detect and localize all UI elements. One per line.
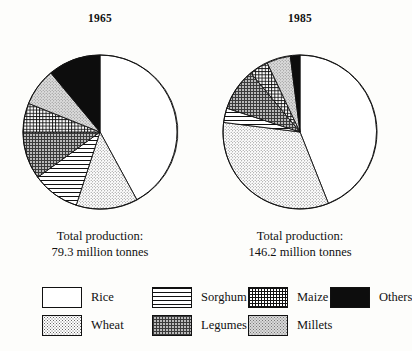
pie-chart-1985 xyxy=(220,52,380,212)
legend-item-others: Others xyxy=(330,285,412,309)
legend-swatch-wheat xyxy=(42,315,82,336)
legend-label-maize: Maize xyxy=(297,290,328,305)
total-production-label-1985: Total production: xyxy=(200,228,400,244)
pie-title-1965: 1965 xyxy=(0,12,200,24)
pie-chart-1965 xyxy=(20,52,180,212)
legend-label-sorghum: Sorghum xyxy=(201,290,247,305)
legend-label-rice: Rice xyxy=(91,290,114,305)
pie-panel-1965: 1965 xyxy=(0,0,200,281)
legend-item-rice: Rice xyxy=(42,285,114,309)
chart-legend: Rice Sorghum Maize Others Wheat Legumes … xyxy=(0,283,400,351)
legend-swatch-maize xyxy=(248,287,288,308)
legend-item-wheat: Wheat xyxy=(42,313,124,337)
total-production-label-1965: Total production: xyxy=(0,228,200,244)
charts-container: 1965 xyxy=(0,0,400,281)
total-production-value-1965: 79.3 million tonnes xyxy=(0,244,200,260)
legend-item-sorghum: Sorghum xyxy=(152,285,247,309)
pie-svg-1965 xyxy=(20,52,180,212)
total-production-value-1985: 146.2 million tonnes xyxy=(200,244,400,260)
legend-label-legumes: Legumes xyxy=(201,318,247,333)
total-production-1965: Total production: 79.3 million tonnes xyxy=(0,228,200,260)
legend-label-wheat: Wheat xyxy=(91,318,124,333)
legend-label-others: Others xyxy=(379,290,412,305)
legend-item-maize: Maize xyxy=(248,285,328,309)
legend-swatch-rice xyxy=(42,287,82,308)
pie-title-1985: 1985 xyxy=(200,12,400,24)
legend-row-1: Rice Sorghum Maize Others xyxy=(0,285,400,311)
legend-item-legumes: Legumes xyxy=(152,313,247,337)
legend-swatch-legumes xyxy=(152,315,192,336)
legend-swatch-others xyxy=(330,287,370,308)
pie-svg-1985 xyxy=(220,52,380,212)
pie-panel-1985: 1985 xyxy=(200,0,400,281)
legend-swatch-sorghum xyxy=(152,287,192,308)
legend-item-millets: Millets xyxy=(248,313,332,337)
legend-row-2: Wheat Legumes Millets xyxy=(0,313,400,339)
legend-swatch-millets xyxy=(248,315,288,336)
legend-label-millets: Millets xyxy=(297,318,332,333)
total-production-1985: Total production: 146.2 million tonnes xyxy=(200,228,400,260)
